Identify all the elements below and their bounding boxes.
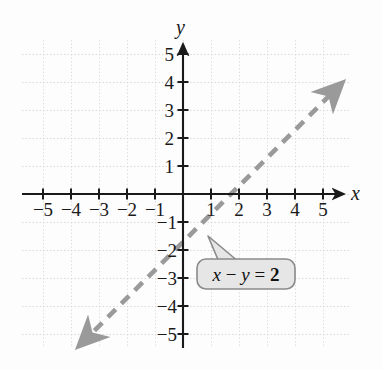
x-tick-label-1: 1	[206, 199, 216, 220]
y-tick-label-5: 5	[165, 44, 175, 65]
x-tick-label-neg2: −2	[117, 199, 137, 220]
y-tick-label-4: 4	[165, 72, 175, 93]
y-tick-label-3: 3	[165, 100, 175, 121]
y-tick-label-2: 2	[165, 128, 175, 149]
x-axis-label: x	[350, 182, 360, 204]
x-tick-label-2: 2	[234, 199, 244, 220]
x-tick-label-neg4: −4	[61, 199, 82, 220]
x-tick-label-3: 3	[262, 199, 272, 220]
coordinate-plane: x y −5 −4 −3 −2 −1 1 2 3 4 5 5 4 3 2 1 −…	[0, 0, 382, 370]
y-tick-label-neg5: −5	[157, 324, 177, 345]
callout-equals: =	[254, 264, 265, 285]
graph-figure: x y −5 −4 −3 −2 −1 1 2 3 4 5 5 4 3 2 1 −…	[0, 0, 382, 370]
x-tick-label-neg3: −3	[89, 199, 109, 220]
y-tick-label-neg2: −2	[157, 240, 177, 261]
x-tick-label-neg5: −5	[33, 199, 53, 220]
y-tick-label-neg1: −1	[157, 212, 177, 233]
callout-operator: −	[226, 264, 237, 285]
y-tick-label-neg4: −4	[157, 296, 178, 317]
y-axis-label: y	[174, 16, 185, 39]
callout-value: 2	[270, 264, 280, 285]
callout-equation: x − y = 2	[212, 264, 280, 285]
y-tick-label-1: 1	[165, 156, 175, 177]
y-tick-label-neg3: −3	[157, 268, 177, 289]
x-tick-label-5: 5	[318, 199, 328, 220]
x-tick-label-4: 4	[290, 199, 300, 220]
callout-right-var: y	[239, 264, 250, 285]
